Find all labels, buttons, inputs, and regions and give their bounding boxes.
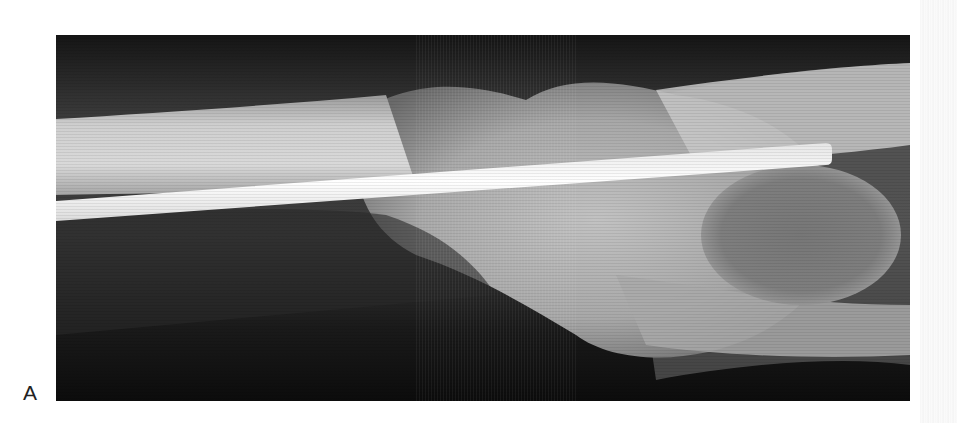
scan-artifact-strip bbox=[920, 0, 957, 423]
panel-label: A bbox=[23, 381, 37, 405]
xray-image bbox=[56, 35, 910, 401]
scan-artifact-band bbox=[416, 35, 576, 401]
